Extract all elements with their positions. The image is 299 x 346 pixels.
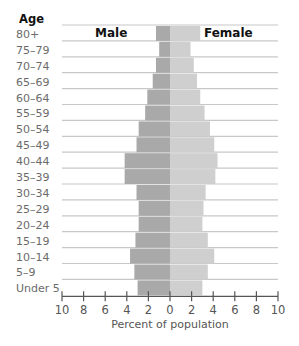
age-label: 65–69 xyxy=(16,76,50,89)
age-label: 35–39 xyxy=(16,171,50,184)
legend-male: Male xyxy=(95,26,127,40)
bar-female xyxy=(170,265,208,280)
bar-female xyxy=(170,153,218,168)
bar-female xyxy=(170,249,214,264)
x-axis: 1086420246810 xyxy=(55,291,286,317)
bar-female xyxy=(170,233,208,248)
age-label: 15–19 xyxy=(16,235,50,248)
bar-male xyxy=(125,169,170,184)
age-label: 80+ xyxy=(16,28,39,41)
bar-female xyxy=(170,121,210,136)
bar-female xyxy=(170,26,200,41)
x-tick-label: 6 xyxy=(102,303,109,317)
bar-male xyxy=(139,121,170,136)
age-label: 25–29 xyxy=(16,203,50,216)
bar-male xyxy=(137,185,170,200)
bar-male xyxy=(125,153,170,168)
age-label: 60–64 xyxy=(16,92,50,105)
age-label: 55–59 xyxy=(16,107,50,120)
bar-male xyxy=(156,26,170,41)
bar-male xyxy=(156,58,170,73)
age-label: 50–54 xyxy=(16,123,50,136)
bar-male xyxy=(130,249,170,264)
bar-male xyxy=(145,106,170,121)
age-labels: 80+75–7970–7465–6960–6455–5950–5445–4940… xyxy=(16,28,60,295)
bars xyxy=(125,26,218,295)
bar-female xyxy=(170,58,194,73)
bar-male xyxy=(159,42,170,57)
bar-male xyxy=(134,265,170,280)
bar-male xyxy=(153,74,170,89)
bar-female xyxy=(170,169,215,184)
age-label: 10–14 xyxy=(16,251,50,264)
x-tick-label: 10 xyxy=(271,303,286,317)
x-tick-label: 2 xyxy=(145,303,152,317)
x-tick-label: 0 xyxy=(166,303,173,317)
bar-male xyxy=(138,280,170,295)
x-tick-label: 10 xyxy=(55,303,70,317)
age-label: 75–79 xyxy=(16,44,50,57)
age-label: 45–49 xyxy=(16,139,50,152)
age-label: 70–74 xyxy=(16,60,50,73)
age-header: Age xyxy=(19,12,44,26)
bar-female xyxy=(170,217,202,232)
bar-male xyxy=(137,137,170,152)
bar-female xyxy=(170,201,203,216)
x-tick-label: 8 xyxy=(80,303,87,317)
bar-female xyxy=(170,280,202,295)
x-tick-label: 4 xyxy=(123,303,130,317)
bar-female xyxy=(170,185,206,200)
x-tick-label: 8 xyxy=(253,303,260,317)
age-label: Under 5 xyxy=(16,282,60,295)
age-label: 30–34 xyxy=(16,187,50,200)
bar-female xyxy=(170,74,197,89)
age-label: 40–44 xyxy=(16,155,50,168)
x-tick-label: 2 xyxy=(188,303,195,317)
x-axis-title: Percent of population xyxy=(111,318,229,331)
bar-female xyxy=(170,90,200,105)
population-pyramid-chart: 80+75–7970–7465–6960–6455–5950–5445–4940… xyxy=(0,0,299,346)
bar-female xyxy=(170,137,214,152)
age-label: 20–24 xyxy=(16,219,50,232)
age-label: 5–9 xyxy=(16,266,36,279)
bar-female xyxy=(170,106,205,121)
bar-female xyxy=(170,42,191,57)
x-tick-label: 4 xyxy=(210,303,217,317)
x-tick-label: 6 xyxy=(231,303,238,317)
bar-male xyxy=(135,233,170,248)
bar-male xyxy=(147,90,170,105)
bar-male xyxy=(139,201,170,216)
bar-male xyxy=(139,217,170,232)
legend-female: Female xyxy=(204,26,253,40)
